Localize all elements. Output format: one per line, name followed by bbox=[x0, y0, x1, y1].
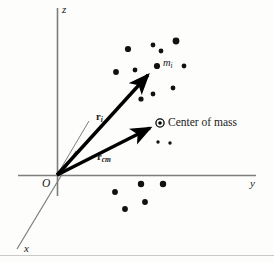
particle-dot bbox=[138, 181, 144, 187]
y-axis-label: y bbox=[250, 178, 255, 189]
particle-dot bbox=[151, 92, 156, 97]
mass-label-mi-sub: i bbox=[171, 61, 173, 70]
center-of-mass-marker bbox=[156, 119, 164, 127]
particle-dot bbox=[112, 189, 118, 195]
particle-dot bbox=[160, 181, 166, 187]
mass-label-mi: mi bbox=[163, 58, 173, 69]
particle-dot bbox=[113, 69, 119, 75]
particle-dot bbox=[156, 140, 159, 143]
x-axis-label: x bbox=[24, 243, 29, 254]
vector-label-r-cm-sub: cm bbox=[102, 155, 111, 164]
vector-label-r-cm-main: r bbox=[97, 151, 102, 162]
particle-dot bbox=[125, 46, 131, 52]
center-of-mass-label: Center of mass bbox=[168, 117, 237, 129]
center-of-mass-figure: z y x O ri rcm mi Center of mass bbox=[0, 0, 274, 262]
particle-dot bbox=[171, 86, 176, 91]
particle-dot bbox=[173, 38, 180, 45]
vector-label-r-i: ri bbox=[96, 112, 103, 123]
particle-dot bbox=[122, 206, 128, 212]
particle-dot bbox=[159, 49, 164, 54]
origin-label: O bbox=[42, 178, 50, 190]
vector-label-r-i-sub: i bbox=[101, 115, 103, 124]
particle-dot bbox=[133, 68, 138, 73]
mass-label-mi-main: m bbox=[163, 57, 171, 68]
vector-label-r-cm: rcm bbox=[97, 152, 111, 163]
particle-dot bbox=[142, 199, 148, 205]
vector-label-r-i-main: r bbox=[96, 111, 101, 122]
particle-dot bbox=[182, 64, 187, 69]
particle-dot bbox=[138, 96, 143, 101]
figure-canvas bbox=[0, 0, 274, 262]
particle-dot bbox=[168, 141, 171, 144]
particle-dot bbox=[151, 43, 156, 48]
z-axis-label: z bbox=[62, 4, 66, 15]
particle-dot-mi bbox=[154, 63, 160, 69]
